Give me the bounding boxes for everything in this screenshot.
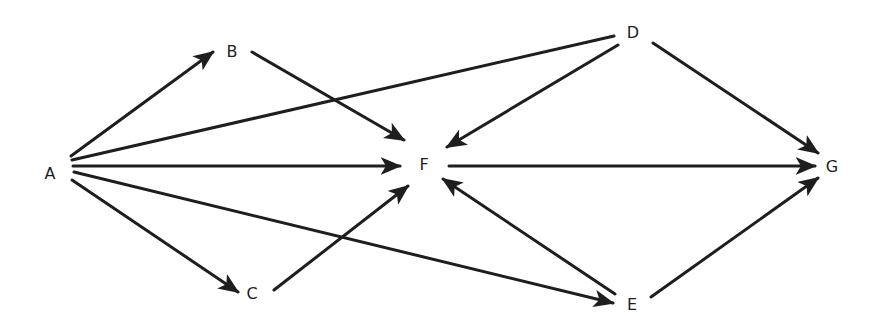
node-e: E	[627, 295, 637, 314]
edge-e-to-f	[443, 179, 615, 294]
edges-group	[71, 36, 818, 303]
node-b: B	[227, 42, 238, 61]
edge-c-to-f	[274, 186, 408, 290]
node-d: D	[627, 23, 639, 42]
directed-graph-diagram: ABCDEFG	[0, 0, 879, 335]
edge-e-to-g	[651, 178, 818, 297]
node-a: A	[45, 164, 56, 183]
edge-a-to-c	[72, 180, 238, 292]
nodes-group: ABCDEFG	[45, 23, 839, 314]
node-g: G	[826, 157, 838, 176]
edge-a-to-b	[71, 52, 213, 156]
node-c: C	[246, 284, 257, 303]
node-f: F	[419, 155, 428, 174]
edge-a-to-d	[72, 36, 614, 160]
edge-d-to-f	[447, 45, 618, 147]
edge-b-to-f	[252, 52, 404, 140]
edge-d-to-g	[653, 43, 818, 153]
